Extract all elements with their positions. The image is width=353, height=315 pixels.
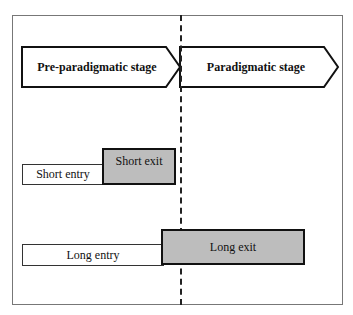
long-exit-label: Long exit [210,240,256,255]
paradigmatic-label: Paradigmatic stage [182,47,330,87]
short-entry-bar: Short entry [22,164,104,185]
long-exit-bar: Long exit [161,229,305,265]
short-exit-label: Short exit [116,154,163,169]
short-entry-label: Short entry [36,167,90,182]
pre-paradigmatic-label: Pre-paradigmatic stage [22,47,172,87]
long-entry-label: Long entry [67,248,120,263]
long-entry-bar: Long entry [22,244,164,266]
short-exit-bar: Short exit [102,148,176,185]
